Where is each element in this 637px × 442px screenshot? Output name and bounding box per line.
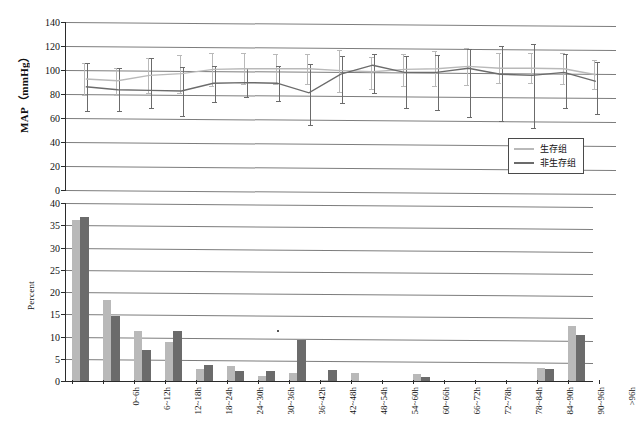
- bar-生存组-12~18h: [134, 331, 143, 381]
- map-y-tick-40: 40: [28, 137, 60, 148]
- percent-bar-chart-panel: Percent 0510152025303540 0~6h6~12h12~18h…: [0, 198, 630, 442]
- map-y-tick-120: 120: [28, 41, 60, 52]
- x-tickmark: [568, 380, 569, 384]
- x-tickmark: [320, 380, 321, 384]
- percent-y-tick-40: 40: [30, 198, 60, 209]
- bar-非生存组-36~42h: [266, 371, 275, 381]
- map-y-tick-20: 20: [28, 161, 60, 172]
- bar-生存组-54~60h: [351, 373, 360, 381]
- x-tickmark: [506, 380, 507, 384]
- x-tickmark: [103, 380, 104, 384]
- x-tick-label-36~42h: 36~42h: [317, 387, 327, 439]
- percent-y-tick-20: 20: [30, 287, 60, 298]
- bar-非生存组-66~72h: [421, 377, 430, 381]
- bar-非生存组-90~96h: [545, 369, 554, 381]
- bar-生存组->96h: [568, 326, 577, 381]
- x-tick-label-48~54h: 48~54h: [379, 387, 389, 439]
- map-gridline: [66, 190, 616, 195]
- legend-item-survivor: 生存组: [514, 142, 576, 156]
- x-tickmark: [227, 380, 228, 384]
- percent-y-tick-0: 0: [30, 376, 60, 387]
- bar-生存组-48~54h: [320, 380, 329, 381]
- bar-生存组-6~12h: [103, 300, 112, 381]
- x-tickmark: [444, 380, 445, 384]
- legend-label-nonsurvivor: 非生存组: [540, 156, 576, 170]
- x-tickmark: [537, 380, 538, 384]
- legend-swatch-nonsurvivor: [514, 162, 534, 164]
- map-line-chart-panel: MAP（mmHg） 020406080100120140 生存组 非生存组: [0, 0, 630, 198]
- x-tickmark: [475, 380, 476, 384]
- x-tick-label-6~12h: 6~12h: [162, 387, 172, 439]
- x-tick-label-18~24h: 18~24h: [224, 387, 234, 439]
- x-tick-label-24~30h: 24~30h: [255, 387, 265, 439]
- x-tick-label-84~90h: 84~90h: [565, 387, 575, 439]
- bar-非生存组-24~30h: [204, 365, 213, 381]
- bar-生存组-66~72h: [413, 374, 422, 381]
- x-tick-label-72~78h: 72~78h: [503, 387, 513, 439]
- x-tickmark: [258, 380, 259, 384]
- x-tick-label->96h: >96h: [627, 387, 637, 439]
- x-tick-label-54~60h: 54~60h: [410, 387, 420, 439]
- map-y-tick-140: 140: [28, 17, 60, 28]
- scan-speck: [277, 330, 279, 332]
- x-tickmark: [72, 380, 73, 384]
- x-tick-label-78~84h: 78~84h: [534, 387, 544, 439]
- bar-非生存组-18~24h: [173, 331, 182, 381]
- bar-非生存组-6~12h: [111, 316, 120, 381]
- x-tick-label-30~36h: 30~36h: [286, 387, 296, 439]
- x-tickmark: [289, 380, 290, 384]
- bar-生存组-30~36h: [227, 366, 236, 381]
- x-tickmark: [351, 380, 352, 384]
- map-y-tick-80: 80: [28, 89, 60, 100]
- legend: 生存组 非生存组: [508, 138, 584, 174]
- x-tick-label-12~18h: 12~18h: [193, 387, 203, 439]
- percent-y-tick-15: 15: [30, 309, 60, 320]
- x-tickmark: [165, 380, 166, 384]
- bar-非生存组-0~6h: [80, 217, 89, 381]
- x-tick-label-90~96h: 90~96h: [596, 387, 606, 439]
- bar-生存组-42~48h: [289, 373, 298, 381]
- x-tickmark: [413, 380, 414, 384]
- bar-生存组-18~24h: [165, 342, 174, 381]
- percent-y-tick-5: 5: [30, 353, 60, 364]
- x-tickmark: [599, 380, 600, 384]
- x-tick-label-42~48h: 42~48h: [348, 387, 358, 439]
- x-tick-label-0~6h: 0~6h: [131, 387, 141, 439]
- bar-生存组-24~30h: [196, 369, 205, 381]
- bar-非生存组-12~18h: [142, 350, 151, 381]
- bar-非生存组-30~36h: [235, 371, 244, 381]
- map-y-tick-60: 60: [28, 113, 60, 124]
- legend-swatch-survivor: [514, 148, 534, 150]
- bar-生存组-0~6h: [72, 220, 81, 381]
- x-tickmark: [134, 380, 135, 384]
- x-tick-labels: 0~6h6~12h12~18h18~24h24~30h30~36h36~42h4…: [66, 384, 593, 440]
- x-tick-label-66~72h: 66~72h: [472, 387, 482, 439]
- bar-非生存组-48~54h: [328, 370, 337, 381]
- map-y-tick-100: 100: [28, 65, 60, 76]
- legend-label-survivor: 生存组: [540, 142, 567, 156]
- percent-y-tick-30: 30: [30, 242, 60, 253]
- map-y-tick-0: 0: [28, 185, 60, 196]
- x-tick-label-60~66h: 60~66h: [441, 387, 451, 439]
- map-line-非生存组: [86, 65, 596, 93]
- bar-生存组-36~42h: [258, 376, 267, 381]
- bar-plot-area: [66, 203, 593, 381]
- bar-非生存组-42~48h: [297, 340, 306, 381]
- legend-item-nonsurvivor: 非生存组: [514, 156, 576, 170]
- bar-非生存组->96h: [576, 335, 585, 381]
- percent-y-tick-25: 25: [30, 264, 60, 275]
- x-tickmark: [382, 380, 383, 384]
- bar-生存组-90~96h: [537, 368, 546, 381]
- percent-y-tick-10: 10: [30, 331, 60, 342]
- percent-y-tick-35: 35: [30, 220, 60, 231]
- x-tickmark: [196, 380, 197, 384]
- percent-x-axis-line: [65, 381, 593, 382]
